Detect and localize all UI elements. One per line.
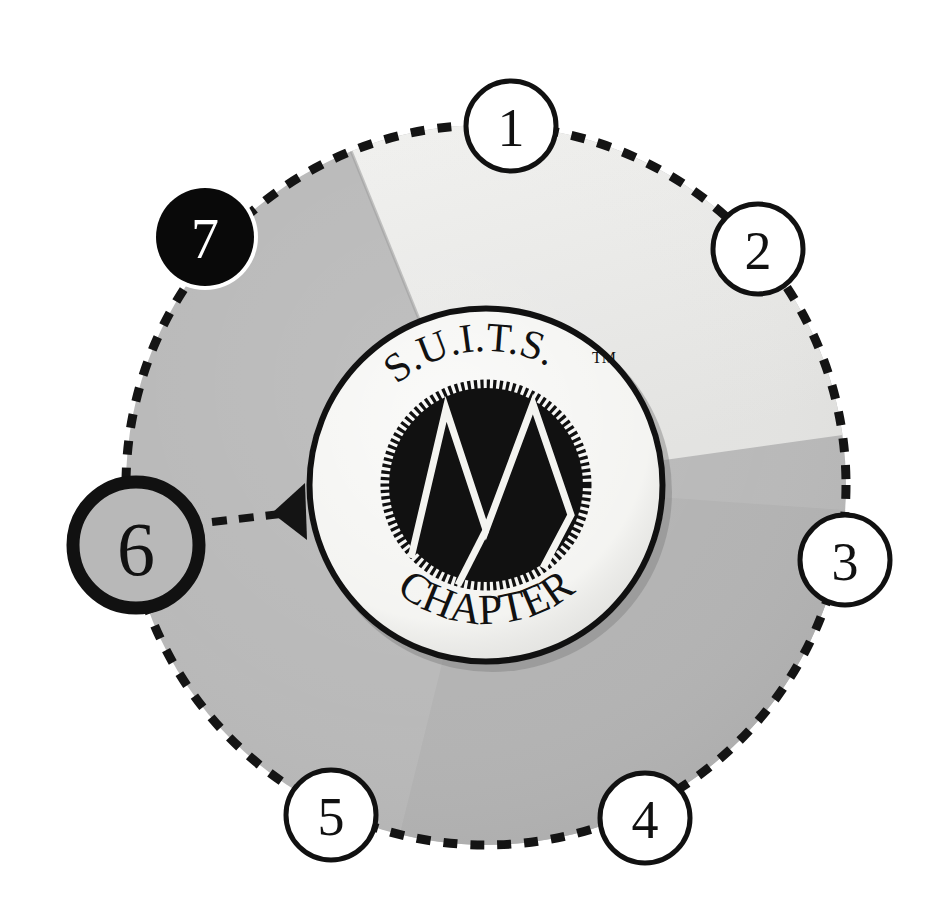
wheel-node-6[interactable]: 6: [73, 482, 199, 608]
wheel-node-1[interactable]: 1: [466, 81, 556, 171]
wheel-node-5-label: 5: [318, 787, 345, 847]
wheel-node-4-label: 4: [632, 790, 659, 850]
wheel-node-4[interactable]: 4: [600, 773, 690, 863]
wheel-node-2-label: 2: [745, 221, 772, 281]
wheel-node-3[interactable]: 3: [800, 515, 890, 605]
emblem-trademark-icon: TM: [592, 349, 616, 366]
diagram-root: S.U.I.T.S. TM CHAPTER 1: [0, 0, 931, 903]
wheel-node-1-label: 1: [498, 98, 525, 158]
wheel-node-2[interactable]: 2: [713, 204, 803, 294]
wheel-node-6-label: 6: [117, 507, 155, 591]
wheel-node-5[interactable]: 5: [286, 770, 376, 860]
wheel-node-3-label: 3: [832, 532, 859, 592]
wheel-node-7[interactable]: 7: [152, 184, 258, 290]
wheel-node-7-label: 7: [191, 208, 219, 270]
wheel-diagram-canvas: S.U.I.T.S. TM CHAPTER 1: [0, 0, 931, 903]
